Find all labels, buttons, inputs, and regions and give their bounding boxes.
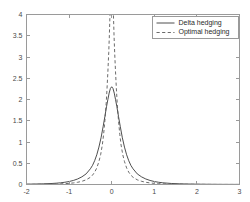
chart-legend: Delta hedgingOptimal hedging [153,17,239,39]
x-tick-label: 2 [195,188,199,195]
y-tick-label: 3.5 [13,32,23,39]
y-tick-label: 1 [19,139,23,146]
y-tick-label: 0.5 [13,160,23,167]
y-tick-label: 2 [19,96,23,103]
y-tick-label: 0 [19,181,23,188]
legend-label-1: Delta hedging [179,19,222,27]
x-tick-label: -2 [23,188,29,195]
x-tick-label: 0 [110,188,114,195]
x-tick-label: 3 [238,188,242,195]
y-tick-label: 3 [19,54,23,61]
y-tick-label: 2.5 [13,75,23,82]
legend-label-2: Optimal hedging [179,28,230,36]
x-tick-label: 1 [152,188,156,195]
y-tick-label: 1.5 [13,117,23,124]
chart-canvas: -2-10123 00.511.522.533.54 Delta hedging… [0,0,250,202]
x-tick-label: -1 [66,188,72,195]
y-tick-label: 4 [19,11,23,18]
chart-figure: -2-10123 00.511.522.533.54 Delta hedging… [0,0,250,202]
